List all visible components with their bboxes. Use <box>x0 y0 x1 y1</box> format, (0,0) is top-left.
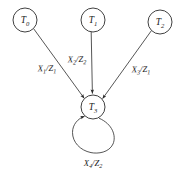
edge-label-x3-z1: X3/Z1 <box>131 64 151 75</box>
diagram-canvas: T0 T1 T2 T3 X1/Z1 X2/Z2 X <box>0 0 188 178</box>
edge-label-x4-z2: X4/Z2 <box>83 158 103 169</box>
state-transition-diagram: T0 T1 T2 T3 X1/Z1 X2/Z2 X <box>0 0 188 178</box>
edge-label-x2-z2: X2/Z2 <box>67 54 87 65</box>
edge-t3-self-loop <box>73 116 115 153</box>
edge-t1-to-t3 <box>91 32 92 94</box>
edge-label-x1-z1: X1/Z1 <box>37 63 57 74</box>
edge-group <box>34 29 152 154</box>
